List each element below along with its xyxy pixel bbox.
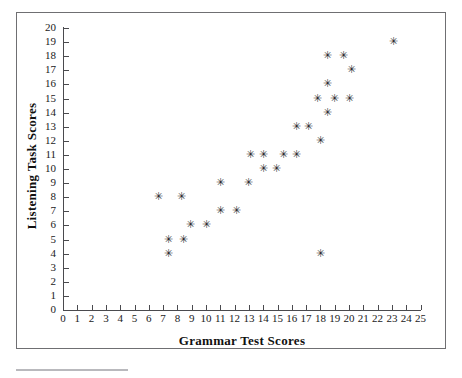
y-tick-mark bbox=[64, 84, 69, 85]
y-tick-label: 10 bbox=[38, 163, 56, 174]
data-point: ✳ bbox=[323, 51, 332, 60]
y-tick-mark bbox=[64, 254, 69, 255]
data-point: ✳ bbox=[389, 37, 398, 46]
y-tick-label: 18 bbox=[38, 50, 56, 61]
data-point: ✳ bbox=[279, 150, 288, 159]
data-point: ✳ bbox=[216, 178, 225, 187]
data-point: ✳ bbox=[292, 150, 301, 159]
data-point: ✳ bbox=[202, 220, 211, 229]
x-tick-mark bbox=[106, 305, 107, 310]
y-tick-mark bbox=[64, 169, 69, 170]
x-tick-mark bbox=[163, 305, 164, 310]
x-tick-mark bbox=[177, 305, 178, 310]
data-point: ✳ bbox=[244, 178, 253, 187]
caption-rule bbox=[16, 369, 128, 371]
y-tick-mark bbox=[64, 56, 69, 57]
x-tick-mark bbox=[120, 305, 121, 310]
plot-area: 0123456789101112131415161718192021222324… bbox=[0, 0, 462, 378]
data-point: ✳ bbox=[313, 94, 322, 103]
x-tick-mark bbox=[349, 305, 350, 310]
x-tick-mark bbox=[292, 305, 293, 310]
y-tick-label: 12 bbox=[38, 135, 56, 146]
x-tick-mark bbox=[320, 305, 321, 310]
y-tick-mark bbox=[64, 268, 69, 269]
y-tick-label: 16 bbox=[38, 78, 56, 89]
x-axis-label: Grammar Test Scores bbox=[63, 333, 421, 349]
x-tick-mark bbox=[421, 305, 422, 310]
y-tick-label: 13 bbox=[38, 121, 56, 132]
data-point: ✳ bbox=[347, 65, 356, 74]
y-tick-mark bbox=[64, 42, 69, 43]
y-tick-label: 7 bbox=[38, 205, 56, 216]
y-tick-label: 15 bbox=[38, 93, 56, 104]
y-tick-mark bbox=[64, 155, 69, 156]
y-tick-mark bbox=[64, 70, 69, 71]
data-point: ✳ bbox=[179, 235, 188, 244]
y-tick-label: 4 bbox=[38, 248, 56, 259]
y-tick-label: 20 bbox=[38, 22, 56, 33]
data-point: ✳ bbox=[246, 150, 255, 159]
x-tick-mark bbox=[363, 305, 364, 310]
y-tick-label: 6 bbox=[38, 219, 56, 230]
data-point: ✳ bbox=[272, 164, 281, 173]
y-tick-mark bbox=[64, 282, 69, 283]
y-axis-label: Listening Task Scores bbox=[24, 66, 40, 266]
data-point: ✳ bbox=[345, 94, 354, 103]
y-tick-label: 5 bbox=[38, 234, 56, 245]
x-tick-mark bbox=[335, 305, 336, 310]
y-tick-label: 1 bbox=[38, 290, 56, 301]
data-point: ✳ bbox=[323, 79, 332, 88]
x-tick-label: 25 bbox=[412, 313, 430, 324]
y-tick-mark bbox=[64, 225, 69, 226]
data-point: ✳ bbox=[323, 108, 332, 117]
x-tick-mark bbox=[263, 305, 264, 310]
data-point: ✳ bbox=[177, 192, 186, 201]
data-point: ✳ bbox=[316, 136, 325, 145]
y-tick-label: 19 bbox=[38, 36, 56, 47]
x-tick-mark bbox=[149, 305, 150, 310]
data-point: ✳ bbox=[330, 94, 339, 103]
x-tick-mark bbox=[192, 305, 193, 310]
y-tick-label: 9 bbox=[38, 177, 56, 188]
x-tick-mark bbox=[235, 305, 236, 310]
data-point: ✳ bbox=[292, 122, 301, 131]
x-tick-mark bbox=[135, 305, 136, 310]
x-tick-mark bbox=[249, 305, 250, 310]
x-tick-mark bbox=[378, 305, 379, 310]
y-tick-mark bbox=[64, 211, 69, 212]
y-tick-label: 0 bbox=[38, 304, 56, 315]
y-tick-label: 3 bbox=[38, 262, 56, 273]
x-tick-mark bbox=[306, 305, 307, 310]
data-point: ✳ bbox=[216, 206, 225, 215]
data-point: ✳ bbox=[154, 192, 163, 201]
y-tick-mark bbox=[64, 99, 69, 100]
y-tick-label: 11 bbox=[38, 149, 56, 160]
data-point: ✳ bbox=[259, 164, 268, 173]
data-point: ✳ bbox=[232, 206, 241, 215]
data-point: ✳ bbox=[259, 150, 268, 159]
data-point: ✳ bbox=[164, 235, 173, 244]
x-tick-mark bbox=[278, 305, 279, 310]
x-axis-line bbox=[63, 310, 421, 311]
data-point: ✳ bbox=[164, 249, 173, 258]
y-tick-mark bbox=[64, 296, 69, 297]
x-tick-mark bbox=[392, 305, 393, 310]
scatterplot-figure: 0123456789101112131415161718192021222324… bbox=[0, 0, 462, 378]
data-point: ✳ bbox=[304, 122, 313, 131]
y-tick-mark bbox=[64, 127, 69, 128]
y-tick-mark bbox=[64, 183, 69, 184]
y-tick-mark bbox=[64, 197, 69, 198]
data-point: ✳ bbox=[186, 220, 195, 229]
x-tick-mark bbox=[206, 305, 207, 310]
y-tick-mark bbox=[64, 113, 69, 114]
y-tick-label: 14 bbox=[38, 107, 56, 118]
y-tick-mark bbox=[64, 28, 69, 29]
y-tick-mark bbox=[64, 310, 69, 311]
x-tick-mark bbox=[220, 305, 221, 310]
y-tick-mark bbox=[64, 141, 69, 142]
y-tick-label: 8 bbox=[38, 191, 56, 202]
data-point: ✳ bbox=[339, 51, 348, 60]
x-tick-mark bbox=[406, 305, 407, 310]
y-tick-label: 17 bbox=[38, 64, 56, 75]
y-tick-label: 2 bbox=[38, 276, 56, 287]
